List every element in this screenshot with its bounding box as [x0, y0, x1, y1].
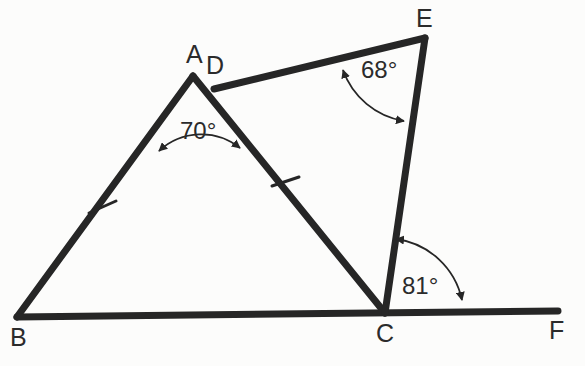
vertex-label-f: F [549, 318, 564, 343]
vertex-label-a: A [186, 42, 203, 67]
angle-label-68: 68° [361, 58, 397, 82]
segment-BF [17, 311, 558, 317]
angle-label-70: 70° [180, 119, 216, 143]
vertex-label-b: B [10, 325, 27, 350]
vertex-label-e: E [416, 6, 433, 31]
geometry-figure: A D B C E F 70° 68° 81° [0, 0, 585, 366]
vertex-label-d: D [206, 53, 224, 78]
angle-label-81: 81° [402, 274, 438, 298]
segment-AC [193, 76, 385, 313]
geometry-canvas [0, 0, 585, 366]
vertex-label-c: C [376, 321, 394, 346]
segment-BA [17, 76, 193, 317]
